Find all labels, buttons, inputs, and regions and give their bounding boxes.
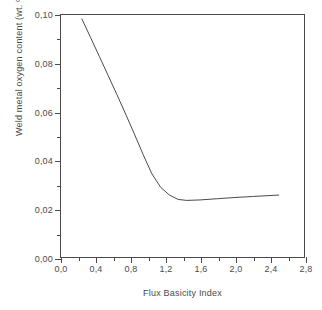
- y-axis-tick-label: 0,10: [35, 10, 53, 20]
- y-axis-tick-label: 0,02: [35, 205, 53, 215]
- data-curve-layer: [60, 14, 305, 258]
- x-axis-tick-label: 1,2: [159, 264, 172, 274]
- y-axis-tick-label: 0,04: [35, 156, 53, 166]
- x-axis-tick-label: 0,4: [89, 264, 102, 274]
- y-axis-tick-label: 0,06: [35, 108, 53, 118]
- x-axis-tick-label: 1,6: [194, 264, 207, 274]
- x-axis-tick-label: 2,4: [264, 264, 277, 274]
- oxygen-content-curve: [82, 19, 279, 201]
- x-axis-tick-label: 0,0: [54, 264, 67, 274]
- y-axis-tick-label: 0,08: [35, 59, 53, 69]
- x-axis-tick-major: [306, 257, 307, 263]
- y-axis-tick-label: 0,00: [35, 254, 53, 264]
- x-axis-tick-label: 0,8: [124, 264, 137, 274]
- chart-figure: 0,000,020,040,060,080,100,00,40,81,21,62…: [0, 0, 322, 310]
- x-axis-label: Flux Basicity Index: [60, 288, 305, 298]
- y-axis-label: Weld metal oxygen content (wt. %): [14, 0, 24, 136]
- x-axis-tick-label: 2,8: [299, 264, 312, 274]
- x-axis-tick-label: 2,0: [229, 264, 242, 274]
